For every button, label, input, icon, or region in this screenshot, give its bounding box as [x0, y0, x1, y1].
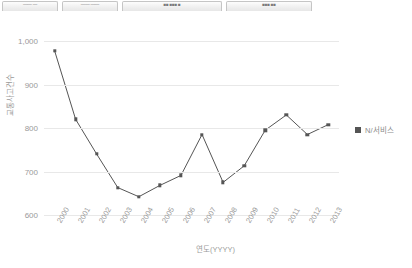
- data-point[interactable]: [200, 133, 203, 136]
- plot-area: 6007008009001,00020002001200220032004200…: [44, 41, 339, 215]
- toolbar-button-1[interactable]: —— —: [2, 1, 58, 11]
- gridline: [44, 172, 339, 173]
- y-axis-title: 교통사고건수: [4, 74, 15, 116]
- data-point[interactable]: [74, 118, 77, 121]
- data-point[interactable]: [285, 113, 288, 116]
- legend-label: N/서비스: [365, 124, 394, 135]
- data-point[interactable]: [116, 186, 119, 189]
- toolbar-button-3[interactable]: ■■ ■■■ ■: [122, 1, 222, 11]
- toolbar-button-3-label: ■■ ■■■ ■: [163, 2, 180, 7]
- toolbar-button-4-label: ■■■ ■■: [262, 2, 276, 7]
- gridline: [44, 85, 339, 86]
- legend-swatch-icon: [355, 127, 361, 133]
- data-point[interactable]: [158, 184, 161, 187]
- y-axis-tick-label: 700: [25, 167, 38, 176]
- legend[interactable]: N/서비스: [355, 124, 394, 135]
- x-axis-title: 연도(YYYY): [196, 243, 235, 254]
- data-point[interactable]: [264, 128, 267, 131]
- data-point[interactable]: [221, 181, 224, 184]
- gridline: [44, 128, 339, 129]
- line-chart: 교통사고건수 연도(YYYY) 6007008009001,0002000200…: [0, 11, 412, 268]
- y-axis-tick-label: 1,000: [18, 37, 38, 46]
- data-point[interactable]: [95, 152, 98, 155]
- toolbar-button-4[interactable]: ■■■ ■■: [226, 1, 312, 11]
- data-point[interactable]: [137, 195, 140, 198]
- y-axis-tick-label: 600: [25, 211, 38, 220]
- toolbar: —— — —— —— ■■ ■■■ ■ ■■■ ■■: [0, 0, 412, 11]
- toolbar-button-2[interactable]: —— ——: [62, 1, 118, 11]
- y-axis-tick-label: 900: [25, 80, 38, 89]
- data-point[interactable]: [53, 49, 56, 52]
- data-point[interactable]: [306, 133, 309, 136]
- gridline: [44, 41, 339, 42]
- data-point[interactable]: [242, 164, 245, 167]
- toolbar-button-1-label: —— —: [23, 2, 37, 7]
- data-point[interactable]: [327, 123, 330, 126]
- toolbar-button-2-label: —— ——: [81, 2, 99, 7]
- data-point[interactable]: [179, 174, 182, 177]
- y-axis-tick-label: 800: [25, 124, 38, 133]
